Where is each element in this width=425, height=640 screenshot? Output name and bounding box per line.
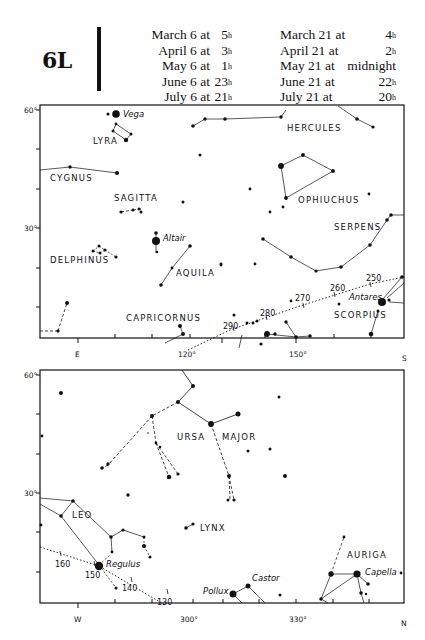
x-label-east: E: [75, 350, 80, 359]
capricornus-lines: [165, 326, 183, 343]
ecliptic-130: 130: [157, 598, 172, 607]
label-altair: Altair: [162, 233, 186, 243]
x-label-150: 150°: [289, 350, 307, 359]
ophiuchus-lines: [281, 155, 333, 198]
pollux-star: [230, 591, 237, 598]
gemini-lines: [233, 586, 265, 603]
x-label-west: W: [74, 615, 82, 624]
y-label-30: 30°: [24, 224, 38, 233]
label-scorpius: SCORPIUS: [334, 310, 387, 320]
ecliptic-290: 290: [223, 322, 238, 331]
x-label-120: 120°: [178, 350, 196, 359]
label-major: MAJOR: [222, 432, 256, 442]
label-hercules: HERCULES: [287, 123, 342, 133]
ecliptic-140: 140: [122, 584, 137, 593]
ecliptic-250: 250: [366, 274, 381, 283]
label-pollux: Pollux: [203, 586, 229, 596]
castor-star: [246, 584, 251, 589]
y-label-30: 30°: [24, 489, 38, 498]
label-lyra: LYRA: [93, 136, 118, 146]
top-constellation-labels: LYRA HERCULES CYGNUS SAGITTA OPHIUCHUS S…: [50, 123, 387, 323]
ursa-major-dashed: [102, 402, 234, 500]
y-label-60: 60°: [24, 106, 38, 115]
top-axis-labels: 60° 30° E 120° 150° S: [24, 106, 407, 363]
label-ophiuchus: OPHIUCHUS: [298, 195, 360, 205]
y-label-60: 60°: [24, 371, 38, 380]
ecliptic-160: 160: [55, 560, 70, 569]
label-cygnus: CYGNUS: [50, 173, 93, 183]
hercules-lines: [193, 106, 373, 127]
top-star-labels: Vega Altair Antares: [123, 109, 382, 302]
x-label-330: 330°: [289, 615, 307, 624]
altair-star: [152, 237, 160, 245]
star-charts: 60° 30° E 120° 150° S LYRA HERCULES CYGN…: [0, 0, 425, 640]
label-leo: LEO: [72, 510, 92, 520]
bottom-stars: [40, 384, 403, 601]
ecliptic-270: 270: [295, 294, 310, 303]
label-aquila: AQUILA: [176, 268, 215, 278]
leo-lines: [40, 498, 144, 565]
x-label-300: 300°: [180, 615, 198, 624]
label-antares: Antares: [348, 292, 382, 302]
label-capella: Capella: [365, 567, 397, 577]
label-delphinus: DELPHINUS: [50, 255, 109, 265]
ecliptic-280: 280: [260, 309, 275, 318]
label-sagitta: SAGITTA: [114, 193, 158, 203]
ursa-major-lines: [178, 370, 238, 424]
bottom-chart-frame: [40, 370, 404, 603]
label-ursa: URSA: [177, 432, 205, 442]
label-castor: Castor: [252, 573, 280, 583]
ecliptic-260: 260: [330, 284, 345, 293]
auriga-lines: [321, 574, 368, 603]
label-vega: Vega: [123, 109, 144, 119]
label-serpens: SERPENS: [334, 222, 381, 232]
bottom-star-labels: Regulus Castor Pollux Capella: [106, 559, 397, 596]
ecliptic-150: 150: [85, 571, 100, 580]
vega-star: [112, 110, 120, 118]
auriga-dashed: [331, 537, 344, 574]
ecliptic-ticks: [60, 551, 168, 594]
x-label-north: N: [401, 619, 407, 628]
label-lynx: LYNX: [200, 523, 226, 533]
label-auriga: AURIGA: [347, 550, 387, 560]
southwest-dashed-lines: [40, 303, 67, 331]
regulus-star: [95, 562, 103, 570]
ecliptic-line: [40, 547, 165, 605]
label-capricornus: CAPRICORNUS: [126, 313, 201, 323]
capella-star: [353, 570, 360, 577]
label-regulus: Regulus: [106, 559, 141, 569]
x-label-south: S: [402, 354, 407, 363]
